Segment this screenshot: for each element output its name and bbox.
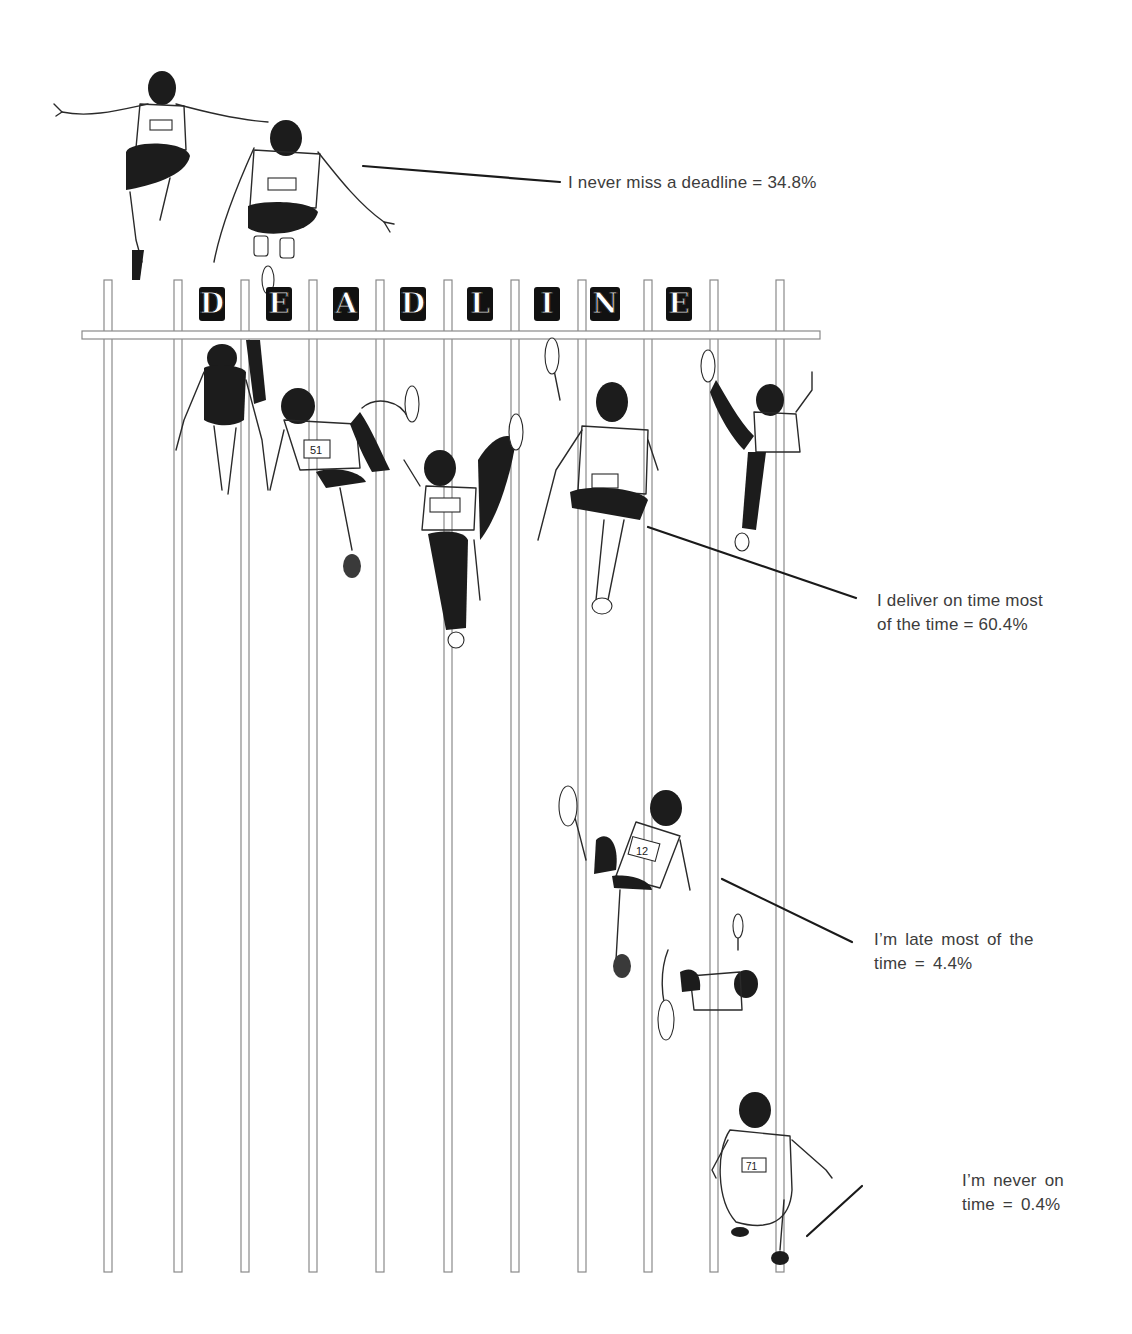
leader-line-on-time-most <box>648 527 856 598</box>
annotation-text-line2: time = 0.4% <box>962 1193 1064 1217</box>
title-letter: A <box>333 287 359 321</box>
title-letter: D <box>199 287 225 321</box>
runner-illustration-6 <box>538 338 658 614</box>
annotation-never-miss: I never miss a deadline = 34.8% <box>568 171 817 195</box>
svg-text:51: 51 <box>310 444 322 456</box>
lane-posts <box>104 280 784 1272</box>
runner-illustration-10: 71 <box>712 1092 832 1265</box>
track-illustration: 51 <box>0 0 1132 1334</box>
runner-illustration-4: 51 <box>270 386 419 578</box>
annotation-text-line1: I’m late most of the <box>874 928 1034 952</box>
deadline-infographic: 51 <box>0 0 1132 1334</box>
runner-illustration-9 <box>658 914 758 1040</box>
runner-illustration-1 <box>54 71 268 280</box>
title-letter: N <box>590 287 620 321</box>
leader-line-never-on-time <box>807 1186 862 1236</box>
runner-illustration-5 <box>404 414 523 648</box>
annotation-never-on-time: I’m never on time = 0.4% <box>962 1169 1064 1217</box>
svg-text:71: 71 <box>746 1161 758 1172</box>
runner-illustration-3 <box>176 266 274 494</box>
runner-illustration-2 <box>214 120 394 262</box>
title-letter: D <box>400 287 426 321</box>
annotation-text-line2: of the time = 60.4% <box>877 613 1043 637</box>
svg-text:12: 12 <box>636 845 648 857</box>
title-letter: L <box>467 287 493 321</box>
annotation-on-time-most: I deliver on time most of the time = 60.… <box>877 589 1043 637</box>
annotation-text-line1: I’m never on <box>962 1169 1064 1193</box>
title-letter: I <box>534 287 560 321</box>
annotation-text-line2: time = 4.4% <box>874 952 1034 976</box>
annotation-text: I never miss a deadline = 34.8% <box>568 173 817 192</box>
leader-line-never-miss <box>363 166 560 182</box>
title-letter: E <box>266 287 292 321</box>
title-letter: E <box>666 287 692 321</box>
annotation-late-most: I’m late most of the time = 4.4% <box>874 928 1034 976</box>
annotation-text-line1: I deliver on time most <box>877 589 1043 613</box>
